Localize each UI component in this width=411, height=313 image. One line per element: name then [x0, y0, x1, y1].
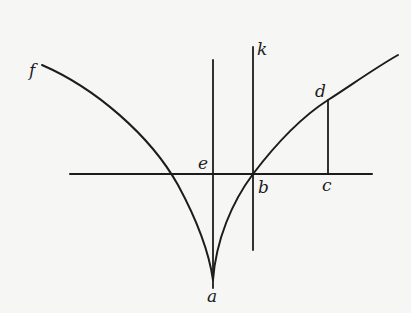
label-e: e	[198, 155, 208, 172]
label-k: k	[257, 41, 267, 58]
label-f: f	[29, 62, 35, 79]
label-b: b	[258, 179, 269, 196]
diagram-figure: f k d e b c a	[0, 0, 411, 313]
label-d: d	[315, 83, 326, 100]
right-curve-ad	[213, 55, 398, 280]
label-c: c	[322, 177, 332, 194]
left-curve-fa	[42, 65, 213, 280]
label-a: a	[207, 288, 217, 305]
